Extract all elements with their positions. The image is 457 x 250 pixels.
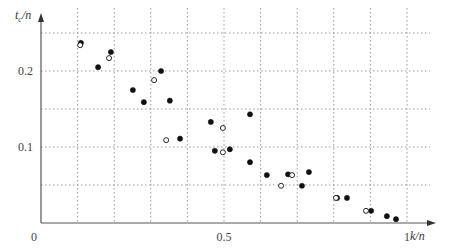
y-tick-label: 0.1 xyxy=(18,140,33,154)
filled-data-point xyxy=(108,49,113,54)
open-data-point xyxy=(78,43,83,48)
filled-data-point xyxy=(247,112,252,117)
open-data-point xyxy=(220,126,225,131)
filled-data-point xyxy=(247,160,252,165)
x-axis-arrow-icon xyxy=(427,220,436,226)
filled-data-point xyxy=(208,119,213,124)
y-tick-label: 0.2 xyxy=(18,64,33,78)
origin-label: 0 xyxy=(31,230,37,244)
filled-data-point xyxy=(344,195,349,200)
open-data-point xyxy=(220,150,225,155)
filled-data-point xyxy=(158,68,163,73)
tick-labels: 0.510.10.2 xyxy=(18,64,410,244)
open-data-point xyxy=(290,173,295,178)
filled-data-point xyxy=(393,217,398,222)
y-axis-label: tc/n xyxy=(15,8,31,24)
filled-data-point xyxy=(141,100,146,105)
filled-data-point xyxy=(227,147,232,152)
open-data-point xyxy=(364,208,369,213)
open-data-point xyxy=(107,56,112,61)
filled-data-point xyxy=(130,87,135,92)
scatter-chart: 0.510.10.2 0 k/n tc/n xyxy=(0,0,457,250)
filled-data-point xyxy=(369,208,374,213)
x-axis-label: k/n xyxy=(410,229,425,243)
filled-data-point xyxy=(167,98,172,103)
filled-data-point xyxy=(177,136,182,141)
filled-data-point xyxy=(95,65,100,70)
data-points xyxy=(78,40,399,222)
open-data-point xyxy=(279,183,284,188)
open-data-point xyxy=(333,195,338,200)
grid-lines xyxy=(41,8,430,223)
y-axis-arrow-icon xyxy=(38,13,44,22)
open-data-point xyxy=(152,78,157,83)
axes xyxy=(38,13,436,226)
filled-data-point xyxy=(212,148,217,153)
filled-data-point xyxy=(384,214,389,219)
filled-data-point xyxy=(299,183,304,188)
filled-data-point xyxy=(264,173,269,178)
filled-data-point xyxy=(306,169,311,174)
open-data-point xyxy=(164,138,169,143)
x-tick-label: 0.5 xyxy=(217,230,232,244)
